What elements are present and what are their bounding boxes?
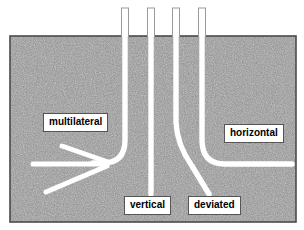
wellhead-pipe-vertical	[148, 8, 155, 37]
wellhead-horizontal	[199, 8, 206, 37]
wellhead-pipe-horizontal	[199, 8, 206, 37]
well-types-diagram: multilateral horizontal vertical deviate…	[0, 0, 304, 230]
wellhead-deviated	[173, 8, 180, 37]
wellhead-stickups	[122, 8, 206, 37]
wellhead-pipe-deviated	[173, 8, 180, 37]
label-vertical: vertical	[124, 196, 171, 215]
label-deviated: deviated	[188, 196, 241, 215]
wellhead-vertical	[148, 8, 155, 37]
label-multilateral: multilateral	[43, 113, 108, 132]
label-horizontal: horizontal	[224, 124, 284, 143]
wellhead-pipe-multilateral	[122, 8, 129, 37]
wellhead-multilateral	[122, 8, 129, 37]
